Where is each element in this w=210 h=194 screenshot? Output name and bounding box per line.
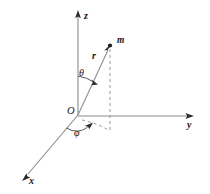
- spherical-coordinates-figure: z y x r m O θ φ: [0, 0, 210, 194]
- r-vector-label: r: [92, 51, 96, 61]
- z-axis: [75, 10, 81, 115]
- theta-arc-arrowhead-icon: [91, 80, 98, 86]
- x-axis-label: x: [29, 176, 34, 186]
- phi-angle-label: φ: [74, 128, 80, 138]
- coordinate-system-svg: [0, 0, 210, 194]
- x-axis-line: [28, 115, 78, 174]
- y-axis-label: y: [187, 120, 191, 130]
- x-axis: [22, 115, 78, 181]
- z-axis-label: z: [84, 11, 88, 21]
- point-m-label: m: [117, 36, 124, 46]
- theta-angle-label: θ: [79, 68, 84, 78]
- y-axis: [78, 113, 194, 119]
- point-m-dot: [108, 43, 112, 47]
- origin-label: O: [67, 106, 75, 117]
